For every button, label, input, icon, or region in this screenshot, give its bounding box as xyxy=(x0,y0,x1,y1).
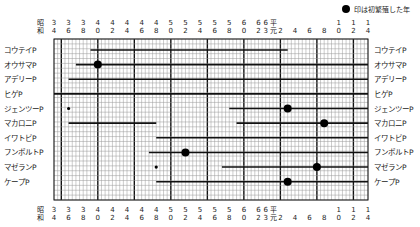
tick-label: 4 xyxy=(96,206,101,214)
tick-label: 3 xyxy=(66,19,70,27)
tick-label: 平 xyxy=(270,206,277,214)
tick-label: 5 xyxy=(227,19,231,27)
top-axis: 昭和34363840424446485052545658606263平元2468… xyxy=(37,19,371,35)
row-label-left: オウサマP xyxy=(4,61,37,70)
tick-label: 4 xyxy=(110,19,115,27)
tick-label: 6 xyxy=(139,27,144,35)
tick-label: 元 xyxy=(270,27,277,35)
tick-label: 0 xyxy=(337,214,341,222)
era-label: 昭 xyxy=(37,19,44,27)
tick-label: 5 xyxy=(212,206,216,214)
era-label: 和 xyxy=(37,26,44,35)
tick-label: 3 xyxy=(52,206,56,214)
tick-label: 4 xyxy=(125,206,130,214)
small-dot-icon xyxy=(155,165,158,168)
tick-label: 8 xyxy=(322,214,326,222)
row-label-right: フンボルトP xyxy=(374,148,414,157)
row-label-left: ジェンツーP xyxy=(4,105,44,114)
row-label-right: ケープP xyxy=(374,178,400,187)
first-breeding-dot-icon xyxy=(94,61,102,69)
tick-label: 5 xyxy=(198,206,202,214)
tick-label: 2 xyxy=(278,27,282,35)
tick-label: 1 xyxy=(366,206,370,214)
tick-label: 3 xyxy=(66,206,70,214)
tick-label: 8 xyxy=(81,27,85,35)
row-label-right: ジェンツーP xyxy=(374,105,414,114)
tick-label: 8 xyxy=(154,214,158,222)
tick-label: 2 xyxy=(351,214,355,222)
row-label-left: コウテイP xyxy=(4,46,37,55)
tick-label: 3 xyxy=(81,206,85,214)
tick-label: 4 xyxy=(125,19,130,27)
tick-label: 6 xyxy=(264,19,269,27)
tick-label: 6 xyxy=(139,214,144,222)
era-label: 和 xyxy=(37,213,44,222)
tick-label: 4 xyxy=(52,27,57,35)
tick-label: 1 xyxy=(351,19,355,27)
tick-label: 5 xyxy=(169,19,173,27)
tick-label: 5 xyxy=(169,206,173,214)
row-label-right: マカロニP xyxy=(374,119,407,128)
tick-label: 5 xyxy=(183,19,187,27)
first-breeding-dot-icon xyxy=(284,105,292,113)
row-label-left: ヒゲP xyxy=(4,90,23,99)
tick-label: 1 xyxy=(366,19,370,27)
tick-label: 6 xyxy=(212,214,217,222)
row-label-right: コウテイP xyxy=(374,46,407,55)
tick-label: 2 xyxy=(183,214,187,222)
row-label-left: マゼランP xyxy=(4,162,37,172)
row-label-right: オウサマP xyxy=(374,61,407,70)
tick-label: 2 xyxy=(278,214,282,222)
tick-label: 6 xyxy=(242,206,247,214)
first-breeding-dot-icon xyxy=(313,163,321,171)
row-label-left: イワトビP xyxy=(4,134,37,143)
tick-label: 5 xyxy=(212,19,216,27)
tick-label: 2 xyxy=(256,27,260,35)
tick-label: 4 xyxy=(52,214,57,222)
tick-label: 6 xyxy=(256,206,261,214)
row-label-right: イワトビP xyxy=(374,134,407,143)
tick-label: 6 xyxy=(307,27,312,35)
small-dot-icon xyxy=(67,107,70,110)
tick-label: 5 xyxy=(183,206,187,214)
first-breeding-dot-icon xyxy=(320,119,328,127)
tick-label: 2 xyxy=(110,27,114,35)
row-label-right: アデリーP xyxy=(374,74,407,84)
tick-label: 0 xyxy=(169,214,173,222)
tick-label: 4 xyxy=(366,27,371,35)
tick-label: 5 xyxy=(198,19,202,27)
tick-label: 6 xyxy=(256,19,261,27)
tick-label: 6 xyxy=(264,206,269,214)
row-label-right: マゼランP xyxy=(374,162,407,172)
tick-label: 4 xyxy=(139,206,144,214)
row-label-left: ケープP xyxy=(4,178,30,187)
tick-label: 6 xyxy=(66,214,71,222)
tick-label: 3 xyxy=(52,19,56,27)
tick-label: 4 xyxy=(198,27,203,35)
tick-label: 6 xyxy=(307,214,312,222)
tick-label: 4 xyxy=(366,214,371,222)
bottom-axis: 昭和34363840424446485052545658606263平元2468… xyxy=(37,206,371,222)
tick-label: 0 xyxy=(337,27,341,35)
row-label-right: ヒゲP xyxy=(374,90,393,99)
tick-label: 1 xyxy=(337,19,341,27)
tick-label: 4 xyxy=(125,27,130,35)
row-label-left: フンボルトP xyxy=(4,148,44,157)
tick-label: 4 xyxy=(139,19,144,27)
tick-label: 2 xyxy=(110,214,114,222)
tick-label: 4 xyxy=(198,214,203,222)
tick-label: 5 xyxy=(227,206,231,214)
tick-label: 4 xyxy=(154,19,159,27)
timeline-chart: 昭和34363840424446485052545658606263平元2468… xyxy=(0,0,420,227)
tick-label: 4 xyxy=(125,214,130,222)
first-breeding-dot-icon xyxy=(181,148,189,156)
tick-label: 8 xyxy=(227,27,231,35)
tick-label: 6 xyxy=(212,27,217,35)
row-label-left: アデリーP xyxy=(4,74,37,84)
tick-label: 6 xyxy=(242,19,247,27)
tick-label: 4 xyxy=(96,19,101,27)
tick-label: 0 xyxy=(242,27,246,35)
tick-label: 8 xyxy=(154,27,158,35)
tick-label: 4 xyxy=(154,206,159,214)
tick-label: 3 xyxy=(264,214,268,222)
